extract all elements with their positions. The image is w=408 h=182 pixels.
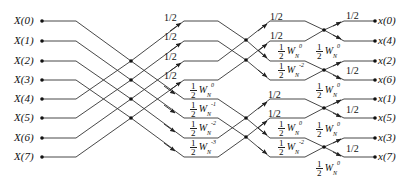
stage2-twiddle-label: 12 WN0 <box>278 43 302 60</box>
output-label-4: x(1) <box>378 93 396 104</box>
stage1-twiddle-label: 12 WN0 <box>190 82 214 99</box>
output-label-5: x(5) <box>378 112 396 123</box>
stage1-twiddle-label: 12 WN-2 <box>190 120 216 137</box>
stage3-twiddle-label: 12 WN0 <box>316 160 340 177</box>
output-label-7: x(7) <box>378 151 396 162</box>
output-label-6: x(3) <box>378 132 396 143</box>
input-label-5: X(5) <box>14 112 34 123</box>
stage3-twiddle-label: 12 WN0 <box>316 82 340 99</box>
stage1-twiddle-label: 12 WN-3 <box>190 139 216 156</box>
input-label-1: X(1) <box>14 35 34 46</box>
output-label-3: x(6) <box>378 74 396 85</box>
input-label-7: X(7) <box>14 151 34 162</box>
stage1-half-label: 1/2 <box>164 13 177 23</box>
input-label-0: X(0) <box>14 15 34 26</box>
input-label-3: X(3) <box>14 74 34 85</box>
stage2-twiddle-label: 12 WN-2 <box>278 139 304 156</box>
stage3-half-label: 1/2 <box>346 66 359 76</box>
input-label-4: X(4) <box>14 93 34 104</box>
stage1-half-label: 1/2 <box>164 32 177 42</box>
stage1-twiddle-label: 12 WN-1 <box>190 101 216 118</box>
output-label-1: x(4) <box>378 35 396 46</box>
stage3-half-label: 1/2 <box>346 105 359 115</box>
stage2-twiddle-label: 12 WN0 <box>278 120 302 137</box>
stage3-half-label: 1/2 <box>346 144 359 154</box>
stage2-half-label: 1/2 <box>270 12 283 22</box>
stage2-half-label: 1/2 <box>270 31 283 41</box>
butterfly-diagram: X(0) X(1) X(2) X(3) X(4) X(5) X(6) X(7) … <box>0 0 408 182</box>
output-label-2: x(2) <box>378 55 396 66</box>
stage1-half-label: 1/2 <box>164 71 177 81</box>
stage2-half-label: 1/2 <box>268 90 281 100</box>
stage3-twiddle-label: 12 WN0 <box>316 121 340 138</box>
stage2-twiddle-label: 12 WN-2 <box>278 62 304 79</box>
output-label-0: x(0) <box>378 15 396 26</box>
input-label-2: X(2) <box>14 55 34 66</box>
stage2-half-label: 1/2 <box>268 109 281 119</box>
stage1-half-label: 1/2 <box>164 52 177 62</box>
stage3-twiddle-label: 12 WN0 <box>316 43 340 60</box>
stage3-half-label: 1/2 <box>346 11 359 21</box>
input-label-6: X(6) <box>14 132 34 143</box>
